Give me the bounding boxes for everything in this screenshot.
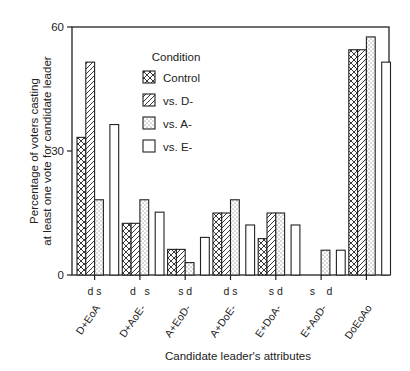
- y-axis-title-line1: Percentage of voters casting: [28, 78, 40, 224]
- legend-swatch-crosshatch: [143, 71, 155, 83]
- legend-label: vs. A-: [163, 118, 192, 130]
- tick-annotation: s d: [178, 285, 192, 297]
- bar-crosshatch: [77, 137, 86, 275]
- bar-crosshatch: [168, 249, 177, 275]
- y-axis-title: Percentage of voters casting at least on…: [28, 56, 53, 245]
- legend-swatch-dots: [143, 117, 155, 129]
- y-tick-label: 60: [51, 21, 64, 33]
- bar-empty: [246, 225, 255, 275]
- bar-dots: [140, 200, 149, 275]
- legend-label: Control: [163, 72, 200, 84]
- bar-dots: [185, 263, 194, 275]
- bar-diagonal: [222, 213, 231, 275]
- bar-dots: [366, 37, 375, 275]
- bar-group: [258, 213, 300, 275]
- legend-swatch-empty: [143, 140, 155, 152]
- y-tick-label: 30: [51, 145, 64, 157]
- category-label: A+DoE-: [207, 302, 238, 340]
- y-axis: 03060: [51, 21, 72, 281]
- bar-group: [77, 62, 119, 275]
- bar-empty: [155, 212, 164, 275]
- legend: Condition Controlvs. D-vs. A-vs. E-: [143, 51, 200, 153]
- bar-dots: [321, 250, 330, 275]
- bar-crosshatch: [213, 213, 222, 275]
- bar-diagonal: [176, 249, 185, 275]
- bar-crosshatch: [258, 239, 267, 275]
- bar-crosshatch: [349, 50, 358, 275]
- category-label: DoEoAo: [342, 302, 374, 341]
- bar-dots: [231, 200, 240, 275]
- bar-group: [349, 37, 391, 275]
- bar-group: [168, 237, 210, 275]
- bar-empty: [110, 125, 119, 275]
- bars: [77, 37, 391, 275]
- bar-empty: [382, 62, 391, 275]
- category-label: E+DoA-: [252, 302, 283, 340]
- category-label: D+AoE-: [116, 302, 147, 340]
- tick-annotation: d s: [223, 285, 237, 297]
- bar-chart: Percentage of voters casting at least on…: [0, 0, 410, 371]
- bar-empty: [291, 225, 300, 275]
- category-label: D+EoA: [73, 302, 102, 336]
- bar-group: [213, 200, 255, 275]
- x-axis: d sD+EoAd sD+AoE-s dA+EoD-d sA+DoE-s dE+…: [73, 275, 374, 341]
- tick-annotation: s d: [269, 285, 283, 297]
- bar-diagonal: [86, 62, 95, 275]
- tick-annotation: d s: [88, 285, 102, 297]
- bar-diagonal: [267, 213, 276, 275]
- legend-label: vs. D-: [163, 95, 193, 107]
- bar-dots: [276, 213, 285, 275]
- bar-empty: [201, 237, 210, 275]
- x-axis-title: Candidate leader's attributes: [165, 350, 311, 362]
- category-label: E+AoD-: [298, 302, 329, 340]
- y-tick-label: 0: [58, 269, 64, 281]
- bar-group: [122, 200, 164, 275]
- category-label: A+EoD-: [162, 302, 193, 340]
- legend-label: vs. E-: [163, 141, 193, 153]
- bar-crosshatch: [122, 223, 131, 275]
- bar-empty: [336, 250, 345, 275]
- bar-diagonal: [358, 50, 367, 275]
- tick-annotation: d s: [130, 285, 150, 297]
- bar-diagonal: [131, 223, 140, 275]
- tick-annotation: s d: [310, 285, 333, 297]
- legend-swatch-diagonal: [143, 94, 155, 106]
- bar-group: [321, 250, 345, 275]
- bar-dots: [95, 200, 104, 275]
- legend-title: Condition: [152, 51, 201, 63]
